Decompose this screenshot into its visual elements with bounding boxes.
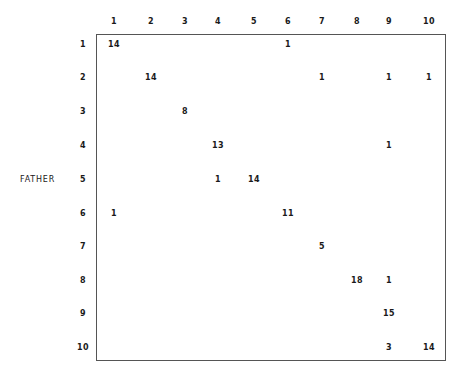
column-header: 2 (148, 17, 154, 26)
matrix-cell: 18 (351, 276, 363, 285)
matrix-cell: 1 (215, 175, 221, 184)
matrix-cell: 8 (182, 107, 188, 116)
column-header: 10 (423, 17, 435, 26)
row-header: 2 (80, 73, 86, 82)
column-header: 7 (319, 17, 325, 26)
row-header: 5 (80, 175, 86, 184)
column-header: 3 (182, 17, 188, 26)
matrix-cell: 14 (423, 343, 435, 352)
row-header: 9 (80, 309, 86, 318)
row-axis-label: FATHER (20, 175, 55, 184)
matrix-cell: 5 (319, 242, 325, 251)
matrix-cell: 3 (386, 343, 392, 352)
row-header: 1 (80, 40, 86, 49)
row-header: 7 (80, 242, 86, 251)
column-header: 6 (285, 17, 291, 26)
column-header: 8 (354, 17, 360, 26)
row-header: 3 (80, 107, 86, 116)
matrix-cell: 14 (145, 73, 157, 82)
column-header: 5 (251, 17, 257, 26)
matrix-cell: 1 (386, 73, 392, 82)
matrix-cell: 1 (386, 141, 392, 150)
column-header: 4 (215, 17, 221, 26)
row-header: 8 (80, 276, 86, 285)
matrix-cell: 1 (386, 276, 392, 285)
matrix-cell: 1 (426, 73, 432, 82)
column-header: 1 (111, 17, 117, 26)
matrix-cell: 1 (285, 40, 291, 49)
matrix-cell: 13 (212, 141, 224, 150)
matrix-cell: 1 (111, 209, 117, 218)
column-header: 9 (386, 17, 392, 26)
row-header: 10 (77, 343, 89, 352)
matrix-cell: 15 (383, 309, 395, 318)
matrix-cell: 14 (108, 40, 120, 49)
row-header: 4 (80, 141, 86, 150)
matrix-cell: 11 (282, 209, 294, 218)
matrix-cell: 14 (248, 175, 260, 184)
matrix-cell: 1 (319, 73, 325, 82)
row-header: 6 (80, 209, 86, 218)
